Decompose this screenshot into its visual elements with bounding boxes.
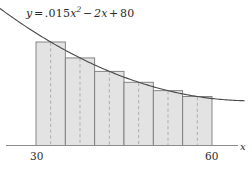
riemann-sum-figure: y=.015x2−2x+80 30 60 x [0,0,252,170]
equation-equals: = [32,7,44,20]
equation-coefficient: .015 [45,7,70,20]
equation-minus: − [82,7,94,20]
equation-plus: + [108,7,120,20]
x-tick-label-60: 60 [205,150,218,162]
rectangles-group [36,42,212,146]
equation-label: y=.015x2−2x+80 [26,7,134,20]
x-tick-label-30: 30 [30,150,43,162]
equation-linear-term: 2x [94,7,108,20]
x-axis-label: x [240,141,246,152]
equation-exponent: 2 [77,5,82,14]
plot-canvas [0,0,252,170]
equation-constant: 80 [120,7,134,20]
